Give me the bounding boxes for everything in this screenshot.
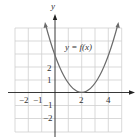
curve-left-arrow-icon (44, 22, 48, 28)
y-tick-neg1: −1 (43, 100, 53, 110)
x-tick-4: 4 (106, 95, 111, 105)
parabola-graph: y y = f(x) −2 −1 2 4 2 1 −1 −2 (0, 0, 139, 138)
x-tick-2: 2 (79, 95, 84, 105)
x-tick-neg1: −1 (33, 95, 43, 105)
axes (8, 18, 131, 137)
y-axis-arrow-icon (53, 14, 57, 20)
curve-right-arrow-icon (116, 22, 120, 28)
y-tick-1: 1 (47, 75, 52, 85)
x-tick-neg2: −2 (19, 95, 29, 105)
y-tick-neg2: −2 (43, 113, 53, 123)
function-label: y = f(x) (64, 42, 92, 52)
x-axis-arrow-icon (129, 90, 135, 94)
y-tick-2: 2 (47, 63, 52, 73)
y-axis-label: y (50, 1, 55, 11)
